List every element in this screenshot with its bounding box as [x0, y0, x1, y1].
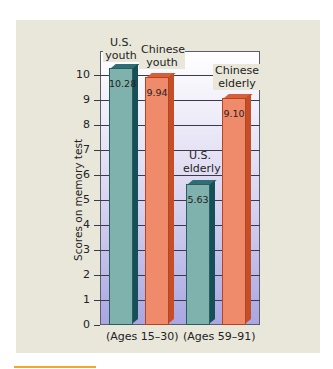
- value-label: 9.94: [145, 87, 169, 98]
- y-tick: [94, 125, 100, 126]
- bar-front: [109, 68, 133, 325]
- bar-side: [133, 64, 138, 323]
- y-tick: [94, 275, 100, 276]
- y-tick: [94, 250, 100, 251]
- bar-side: [210, 180, 215, 323]
- y-tick: [94, 200, 100, 201]
- y-tick: [94, 150, 100, 151]
- y-tick-label: 10: [70, 69, 90, 81]
- y-tick: [94, 175, 100, 176]
- y-tick-label: 8: [70, 119, 90, 131]
- y-tick-label: 9: [70, 94, 90, 106]
- y-tick-label: 0: [70, 319, 90, 331]
- group-label-elderly: (Ages 59–91): [183, 330, 256, 343]
- label-us-youth: U.S. youth: [103, 36, 139, 62]
- value-label: 5.63: [186, 194, 210, 205]
- label-chinese-elderly: Chinese elderly: [213, 64, 261, 90]
- accent-rule: [14, 366, 96, 368]
- y-tick-label: 2: [70, 269, 90, 281]
- label-chinese-youth: Chinese youth: [139, 43, 185, 69]
- bar-front: [222, 98, 246, 326]
- bar-side: [246, 94, 251, 324]
- bar-front: [145, 77, 169, 326]
- y-axis-label: Scores on memory test: [72, 139, 84, 261]
- group-label-youth: (Ages 15–30): [106, 330, 179, 343]
- bar-front: [186, 184, 210, 325]
- bar-u-s-elderly: 5.63: [186, 180, 215, 325]
- y-tick: [94, 75, 100, 76]
- y-tick: [94, 100, 100, 101]
- y-tick-label: 1: [70, 294, 90, 306]
- y-tick: [94, 300, 100, 301]
- value-label: 9.10: [222, 108, 246, 119]
- label-us-elderly: U.S. elderly: [181, 149, 219, 175]
- value-label: 10.28: [109, 78, 133, 89]
- y-tick: [94, 225, 100, 226]
- y-tick: [94, 325, 100, 326]
- bar-chinese-youth: 9.94: [145, 73, 174, 326]
- bar-u-s-youth: 10.28: [109, 64, 138, 325]
- bar-side: [169, 73, 174, 324]
- bar-chinese-elderly: 9.10: [222, 94, 251, 326]
